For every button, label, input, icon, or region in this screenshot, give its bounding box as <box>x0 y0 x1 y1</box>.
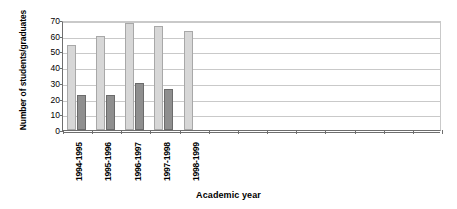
bar-series-container <box>63 22 440 130</box>
x-axis-tick-mark <box>325 130 326 134</box>
y-axis-tick-label: 20 <box>36 96 60 104</box>
x-axis-tick-mark <box>413 130 414 134</box>
x-axis-tick-mark <box>267 130 268 134</box>
x-axis-category-label: 1994-1995 <box>74 142 84 181</box>
y-axis-tick-label: 50 <box>36 48 60 56</box>
y-axis-tick-label: 0 <box>36 127 60 135</box>
bar-group <box>63 22 92 130</box>
x-axis-category-label: 1995-1996 <box>103 142 113 181</box>
bar-group <box>150 22 179 130</box>
y-axis-tick-labels: 010203040506070 <box>30 21 60 131</box>
bar-graduates <box>164 89 173 130</box>
plot-area <box>62 21 441 131</box>
x-axis-category-label: 1998-1999 <box>191 142 201 181</box>
bar-students <box>125 23 134 130</box>
x-axis-tick-mark <box>150 130 151 134</box>
x-axis-tick-mark <box>180 130 181 134</box>
bar-students <box>184 31 193 130</box>
bar-group <box>121 22 150 130</box>
bar-students <box>67 45 76 130</box>
x-axis-title: Academic year <box>0 190 457 200</box>
y-axis-tick-label: 60 <box>36 33 60 41</box>
x-axis-tick-mark <box>63 130 64 134</box>
y-axis-tick-label: 70 <box>36 17 60 25</box>
x-axis-tick-mark <box>442 130 443 134</box>
x-axis-category-label: 1996-1997 <box>133 142 143 181</box>
x-axis-tick-mark <box>355 130 356 134</box>
x-axis-tick-mark <box>121 130 122 134</box>
x-axis-tick-mark <box>384 130 385 134</box>
y-axis-tick-label: 10 <box>36 111 60 119</box>
bar-students <box>154 26 163 130</box>
chart-figure: Number of students/graduates 01020304050… <box>0 0 457 209</box>
x-axis-category-label: 1997-1998 <box>162 142 172 181</box>
y-axis-tick-label: 40 <box>36 64 60 72</box>
y-axis-title: Number of students/graduates <box>18 0 28 150</box>
x-axis-tick-mark <box>92 130 93 134</box>
bar-students <box>96 36 105 130</box>
x-axis-tick-mark <box>296 130 297 134</box>
bar-group <box>180 22 209 130</box>
x-axis-tick-mark <box>238 130 239 134</box>
bar-graduates <box>106 95 115 130</box>
bar-group <box>92 22 121 130</box>
bar-graduates <box>77 95 86 130</box>
bar-graduates <box>135 83 144 130</box>
y-axis-tick-label: 30 <box>36 80 60 88</box>
x-axis-tick-mark <box>209 130 210 134</box>
x-axis-category-labels: 1994-19951995-19961996-19971997-19981998… <box>62 135 441 183</box>
